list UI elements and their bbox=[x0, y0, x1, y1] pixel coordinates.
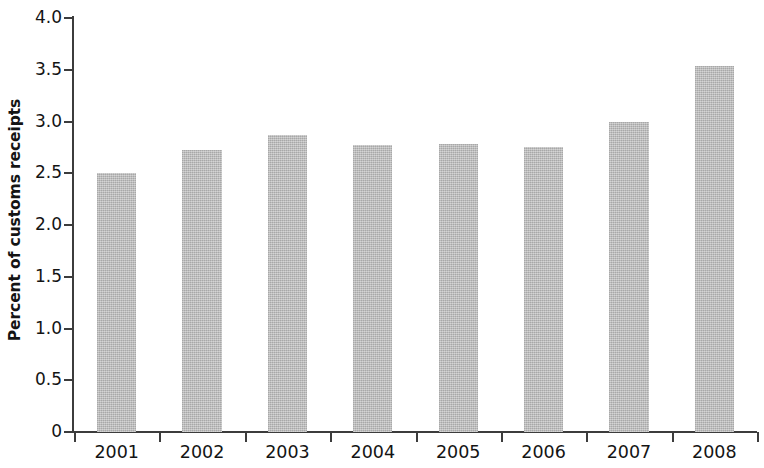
y-axis-tick-label: 2.5 bbox=[4, 164, 62, 181]
y-axis-tick-label: 0.5 bbox=[4, 371, 62, 388]
x-axis-tick-label: 2004 bbox=[330, 443, 415, 462]
bar bbox=[182, 150, 221, 432]
bar bbox=[97, 173, 136, 432]
y-axis-line bbox=[72, 16, 74, 433]
x-axis-tick-label: 2006 bbox=[501, 443, 586, 462]
bar bbox=[695, 66, 734, 432]
x-axis-tick-label: 2001 bbox=[74, 443, 159, 462]
bar bbox=[353, 145, 392, 432]
x-axis-tick-label: 2008 bbox=[672, 443, 757, 462]
bar-chart: Percent of customs receipts 4.03.53.02.5… bbox=[0, 0, 764, 468]
x-axis-tick bbox=[74, 432, 76, 442]
x-axis-tick bbox=[330, 432, 332, 442]
y-axis-tick-label: 4.0 bbox=[4, 9, 62, 26]
y-axis-tick-label: 0 bbox=[4, 423, 62, 440]
x-axis-tick-label: 2005 bbox=[416, 443, 501, 462]
x-axis-tick-label: 2002 bbox=[159, 443, 244, 462]
x-axis-tick bbox=[501, 432, 503, 442]
bar bbox=[439, 144, 478, 432]
y-axis-tick-label: 2.0 bbox=[4, 216, 62, 233]
x-axis-tick bbox=[159, 432, 161, 442]
x-axis-line bbox=[72, 431, 757, 433]
bar bbox=[524, 147, 563, 432]
bar bbox=[609, 122, 648, 433]
x-axis-tick bbox=[416, 432, 418, 442]
bar bbox=[268, 135, 307, 432]
y-axis-tick-label: 1.5 bbox=[4, 268, 62, 285]
x-axis-tick bbox=[586, 432, 588, 442]
x-axis-tick bbox=[757, 432, 759, 442]
x-axis-tick-label: 2007 bbox=[586, 443, 671, 462]
y-axis-tick-label: 3.5 bbox=[4, 61, 62, 78]
x-axis-tick-label: 2003 bbox=[245, 443, 330, 462]
y-axis-tick-label: 3.0 bbox=[4, 113, 62, 130]
x-axis-tick bbox=[672, 432, 674, 442]
y-axis-tick-label: 1.0 bbox=[4, 320, 62, 337]
y-axis-tick-labels: 4.03.53.02.52.01.51.00.50 bbox=[0, 0, 62, 468]
x-axis-tick bbox=[245, 432, 247, 442]
